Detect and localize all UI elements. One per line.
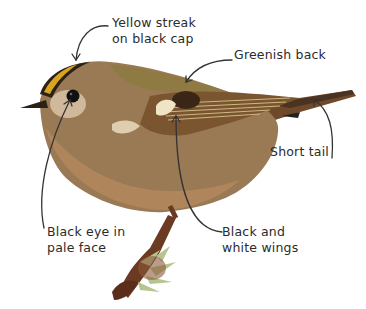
label-yellow-streak: Yellow streak on black cap: [112, 15, 196, 47]
label-short-tail: Short tail: [270, 144, 329, 160]
arrow-crest: [76, 26, 108, 60]
label-greenish-back: Greenish back: [234, 47, 326, 63]
arrow-back: [186, 60, 232, 82]
beak: [20, 100, 48, 108]
label-black-white-wings: Black and white wings: [222, 224, 298, 256]
bird-diagram: Yellow streak on black cap Greenish back…: [0, 0, 366, 309]
label-black-eye: Black eye in pale face: [47, 224, 125, 256]
